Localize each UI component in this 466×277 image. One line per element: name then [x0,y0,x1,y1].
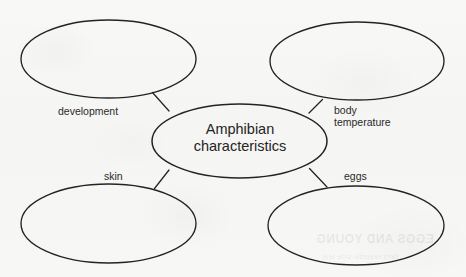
branch-label-development: development [58,105,118,117]
center-node-label-line1: Amphibian [152,121,328,138]
connector-line-skin [155,170,170,189]
branch-label-body-temperature-line1: body [334,104,391,116]
branch-label-body-temperature-line2: temperature [334,116,391,128]
concept-map-page: EGGS AND YOUNG faint reverse-side text A… [0,0,466,277]
bubble-body-temperature[interactable] [270,22,444,100]
bubble-skin[interactable] [21,184,196,263]
connector-line-body-temperature [309,100,323,114]
bubble-development[interactable] [21,20,196,98]
bubble-eggs[interactable] [268,186,444,265]
branch-label-body-temperature: body temperature [334,104,391,129]
center-node-label-line2: characteristics [152,138,328,155]
branch-label-eggs: eggs [344,170,367,182]
branch-label-skin: skin [104,170,123,182]
connector-line-eggs [310,169,328,188]
center-node-label: Amphibian characteristics [152,121,328,156]
connector-line-development [153,93,170,112]
